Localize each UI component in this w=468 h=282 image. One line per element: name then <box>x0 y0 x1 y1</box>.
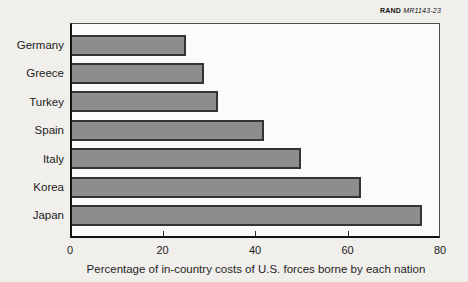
rand-brand-label: RAND <box>380 7 401 14</box>
category-label-germany: Germany <box>0 38 64 52</box>
bar-germany <box>72 35 186 56</box>
bar-turkey <box>72 91 218 112</box>
x-tick-mark <box>163 231 164 236</box>
x-tick-mark <box>348 231 349 236</box>
category-label-greece: Greece <box>0 66 64 80</box>
x-tick-mark <box>255 231 256 236</box>
category-label-japan: Japan <box>0 208 64 222</box>
category-label-italy: Italy <box>0 152 64 166</box>
bar-italy <box>72 148 301 169</box>
x-tick-label: 20 <box>147 244 179 256</box>
x-axis-title: Percentage of in-country costs of U.S. f… <box>44 263 468 275</box>
category-label-korea: Korea <box>0 180 64 194</box>
x-tick-label: 0 <box>54 244 86 256</box>
bar-spain <box>72 120 264 141</box>
figure-id-label: MR1143-23 <box>403 7 441 14</box>
rand-figure: RANDMR1143-23 GermanyGreeceTurkeySpainIt… <box>0 0 468 282</box>
bar-greece <box>72 63 204 84</box>
x-tick-label: 40 <box>239 244 271 256</box>
x-tick-label: 60 <box>332 244 364 256</box>
plot-area <box>70 23 440 238</box>
x-tick-label: 80 <box>424 244 456 256</box>
category-label-turkey: Turkey <box>0 95 64 109</box>
category-label-spain: Spain <box>0 123 64 137</box>
bar-japan <box>72 205 422 226</box>
figure-reference: RANDMR1143-23 <box>380 7 441 14</box>
bar-korea <box>72 177 361 198</box>
